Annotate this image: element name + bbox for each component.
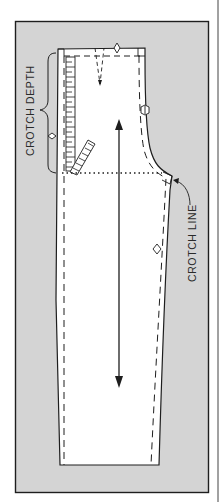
ruler bbox=[66, 57, 75, 171]
side-notch-icon bbox=[141, 105, 149, 115]
crotch-depth-label: CROTCH DEPTH bbox=[24, 65, 36, 156]
pants-pattern-diagram: CROTCH DEPTH CROTCH LINE bbox=[0, 0, 222, 502]
crotch-line-label: CROTCH LINE bbox=[186, 204, 198, 282]
